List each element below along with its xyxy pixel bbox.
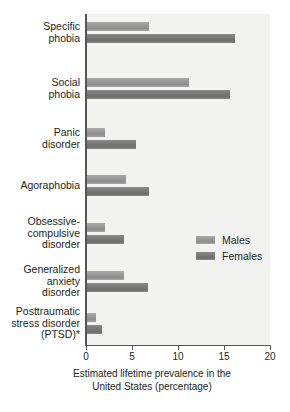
legend-label-males: Males [222, 234, 250, 246]
bar-pair [87, 22, 235, 43]
legend-item-males: Males [196, 232, 262, 248]
category-label: Posttraumaticstress disorder(PTSD)* [0, 306, 80, 341]
bar-females [87, 90, 230, 99]
category-label-line: disorder [0, 287, 80, 299]
x-axis-title-line-2: United States (percentage) [28, 381, 276, 394]
legend-item-females: Females [196, 248, 262, 264]
bar-males [87, 223, 105, 232]
bar-females [87, 283, 148, 292]
x-tick-label: 20 [255, 351, 285, 363]
category-label: Specificphobia [0, 21, 80, 44]
x-axis-title: Estimated lifetime prevalence in the Uni… [28, 368, 276, 393]
bar-pair [87, 271, 148, 292]
category-label-line: Agoraphobia [0, 180, 80, 192]
anxiety-disorder-prevalence-chart: 05101520 SpecificphobiaSocialphobiaPanic… [0, 0, 290, 412]
bar-pair [87, 128, 136, 149]
bar-pair [87, 175, 149, 196]
bar-males [87, 128, 105, 137]
bar-females [87, 34, 235, 43]
category-label-line: phobia [0, 33, 80, 45]
x-tick-label: 15 [209, 351, 239, 363]
bar-females [87, 325, 102, 334]
category-label-line: disorder [0, 239, 80, 251]
category-label: Obsessive-compulsivedisorder [0, 216, 80, 251]
bar-males [87, 313, 96, 322]
category-label-line: Social [0, 77, 80, 89]
legend-swatch-females-icon [196, 252, 215, 260]
bar-males [87, 22, 149, 31]
x-tick-mark [178, 345, 179, 350]
category-label: Panicdisorder [0, 127, 80, 150]
legend-swatch-males-icon [196, 236, 215, 244]
category-label: Agoraphobia [0, 180, 80, 192]
x-tick-mark [86, 345, 87, 350]
x-tick-mark [270, 345, 271, 350]
x-tick-label: 10 [163, 351, 193, 363]
category-label-line: Specific [0, 21, 80, 33]
x-axis-title-line-1: Estimated lifetime prevalence in the [28, 368, 276, 381]
bar-males [87, 78, 189, 87]
x-tick-label: 5 [117, 351, 147, 363]
category-label-line: disorder [0, 139, 80, 151]
chart-legend: Males Females [196, 232, 262, 264]
bar-males [87, 175, 126, 184]
bar-females [87, 187, 149, 196]
x-tick-label: 0 [71, 351, 101, 363]
x-tick-mark [224, 345, 225, 350]
category-label-line: phobia [0, 89, 80, 101]
bar-females [87, 140, 136, 149]
category-label-line: (PTSD)* [0, 329, 80, 341]
category-label: Generalizedanxietydisorder [0, 264, 80, 299]
legend-label-females: Females [222, 250, 262, 262]
x-tick-mark [132, 345, 133, 350]
bar-pair [87, 78, 230, 99]
category-label: Socialphobia [0, 77, 80, 100]
bar-males [87, 271, 124, 280]
category-label-line: Panic [0, 127, 80, 139]
bar-females [87, 235, 124, 244]
bar-pair [87, 313, 102, 334]
bar-pair [87, 223, 124, 244]
